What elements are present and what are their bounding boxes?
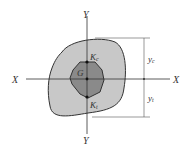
y-axis-label-bottom: Y [83,135,90,146]
yt-label: yt [147,93,154,103]
cross-section-diagram: Y Y X X G Kc Kt yc yt [0,0,193,154]
centroid-point [86,78,89,81]
y-axis-label-top: Y [83,9,90,20]
yc-label: yc [147,54,155,64]
centroid-label: G [77,68,84,78]
dimension-axis-point [143,78,145,80]
kt-point [85,95,88,98]
x-axis-label-right: X [172,74,180,85]
x-axis-label-left: X [11,74,19,85]
kc-point [85,60,88,63]
